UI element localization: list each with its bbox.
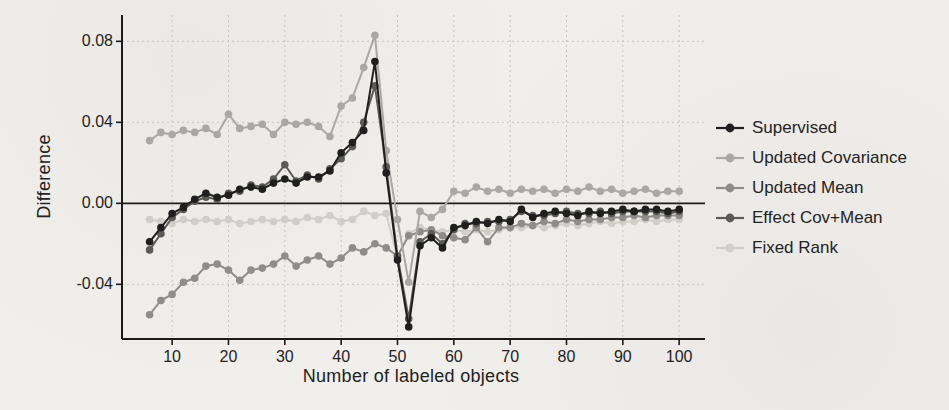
legend-label: Effect Cov+Mean [752,208,883,228]
legend-item-updated-mean: Updated Mean [715,178,864,198]
data-point [495,185,503,193]
data-point [450,234,458,242]
data-point [551,208,559,216]
legend-item-updated-covariance: Updated Covariance [715,148,907,168]
data-point [484,220,492,228]
data-point [518,220,526,228]
data-point [225,191,233,199]
data-point [349,216,357,224]
data-point [146,238,154,246]
data-point [270,131,278,139]
data-point [270,260,278,268]
data-point [236,185,244,193]
data-point [450,224,458,232]
x-tick-label: 80 [544,348,588,366]
data-point [461,222,469,230]
data-point [450,187,458,195]
data-point [394,256,402,264]
data-point [529,214,537,222]
data-point [180,204,188,212]
data-point [664,187,672,195]
data-point [191,218,199,226]
line-dot-marker-icon [715,152,745,164]
x-tick-label: 70 [488,348,532,366]
data-point [191,275,199,283]
data-point [270,179,278,187]
data-point [304,214,312,222]
data-point [247,183,255,191]
data-point [473,183,481,191]
data-point [675,206,683,214]
data-point [326,260,334,268]
data-point [247,218,255,226]
data-point [157,129,165,137]
data-point [337,254,345,262]
x-tick-label: 90 [601,348,645,366]
data-point [360,208,368,216]
data-point [191,196,199,204]
data-point [540,210,548,218]
data-point [225,266,233,274]
legend-item-effect-cov-mean: Effect Cov+Mean [715,208,883,228]
data-point [428,234,436,242]
data-point [473,218,481,226]
x-tick-label: 20 [206,348,250,366]
data-point [146,246,154,254]
data-point [213,131,221,139]
data-point [168,131,176,139]
data-point [461,236,469,244]
data-point [259,264,267,272]
data-point [202,125,210,133]
data-point [292,179,300,187]
data-point [360,248,368,256]
data-point [236,125,244,133]
legend-label: Updated Mean [752,178,864,198]
legend-label: Supervised [752,118,837,138]
line-dot-marker-icon [715,122,745,134]
data-point [157,297,165,305]
data-point [281,119,289,127]
data-point [619,189,627,197]
data-point [180,279,188,287]
data-point [315,252,323,260]
data-point [630,187,638,195]
data-point [157,224,165,232]
data-point [597,187,605,195]
data-point [236,277,244,285]
data-point [349,139,357,147]
data-point [619,206,627,214]
data-point [281,252,289,260]
data-point [653,189,661,197]
data-point [326,212,334,220]
data-point [315,123,323,131]
data-point [585,208,593,216]
data-point [315,216,323,224]
data-point [675,187,683,195]
data-point [337,149,345,157]
data-point [416,208,424,216]
data-point [191,129,199,137]
data-point [608,185,616,193]
data-point [180,127,188,135]
x-tick-label: 30 [263,348,307,366]
data-point [360,127,368,135]
legend-item-fixed-rank: Fixed Rank [715,238,838,258]
data-point [371,212,379,220]
data-point [608,208,616,216]
data-point [642,185,650,193]
data-point [326,133,334,141]
data-point [642,206,650,214]
data-point [281,175,289,183]
data-point [405,279,413,287]
data-point [349,94,357,102]
data-point [259,216,267,224]
data-point [597,210,605,218]
data-point [225,110,233,118]
data-point [247,266,255,274]
data-point [416,242,424,250]
data-point [506,218,514,226]
data-point [551,189,559,197]
data-point [225,216,233,224]
data-point [168,291,176,299]
data-point [213,260,221,268]
